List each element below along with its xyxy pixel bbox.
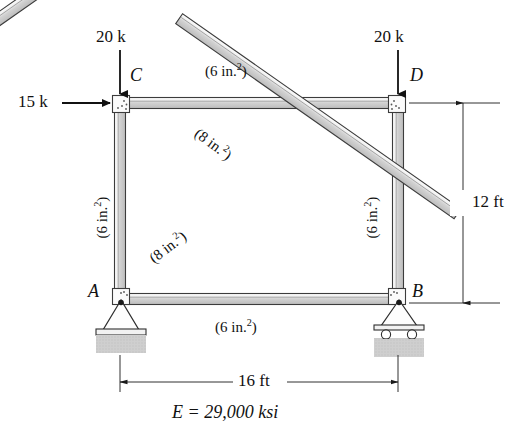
- joint-label-B: B: [412, 282, 423, 300]
- area-label-left-post-exponent: 2: [92, 202, 103, 207]
- area-label-left-post-prefix: (6 in.: [94, 207, 110, 239]
- joint-label-C: C: [130, 66, 142, 84]
- area-label-top-chord-prefix: (6 in.: [205, 63, 237, 79]
- load-label-C-horizontal: 15 k: [18, 93, 48, 110]
- area-label-left-post: (6 in.2): [95, 173, 110, 263]
- member-CB: [176, 14, 461, 219]
- dimension-label-height: 12 ft: [472, 193, 504, 210]
- dimension-label-span: 16 ft: [238, 372, 270, 389]
- member-BD: [393, 103, 404, 299]
- gusset-plate-D: [389, 96, 406, 113]
- area-label-bottom-chord: (6 in.2): [215, 320, 257, 335]
- member-AB: [120, 294, 398, 305]
- area-label-bottom-chord-suffix: ): [252, 319, 257, 335]
- member-CD: [120, 98, 398, 109]
- joint-label-A: A: [88, 282, 99, 300]
- area-label-right-post: (6 in.2): [365, 173, 380, 263]
- area-label-left-post-suffix: ): [94, 197, 110, 202]
- area-label-right-post-exponent: 2: [362, 202, 373, 207]
- area-label-bottom-chord-prefix: (6 in.: [215, 319, 247, 335]
- support-roller-B: [374, 300, 424, 357]
- support-pin-A: [96, 300, 146, 353]
- area-label-right-post-prefix: (6 in.: [364, 207, 380, 239]
- gusset-plate-C: [113, 96, 130, 113]
- truss-figure: 20 k 20 k 15 k C D A B (6 in.2) (6 in.2)…: [0, 0, 513, 444]
- material-modulus-label: E = 29,000 ksi: [172, 403, 278, 421]
- area-label-right-post-suffix: ): [364, 197, 380, 202]
- member-AC: [115, 103, 126, 299]
- area-label-top-chord-suffix: ): [242, 63, 247, 79]
- joint-label-D: D: [410, 66, 423, 84]
- load-label-C-vertical: 20 k: [96, 28, 126, 45]
- load-label-D-vertical: 20 k: [374, 28, 404, 45]
- area-label-top-chord: (6 in.2): [205, 64, 247, 79]
